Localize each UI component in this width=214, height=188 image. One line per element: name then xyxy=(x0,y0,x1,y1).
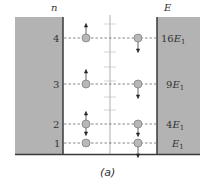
infinite-square-well-diagram: n E 4 3 2 1 16E1 9E1 4E1 E1 (a) xyxy=(0,0,214,188)
particle-left-n3 xyxy=(82,80,90,88)
particle-left-n4 xyxy=(82,34,90,42)
n-label-3: 3 xyxy=(53,79,59,90)
n-label-2: 2 xyxy=(53,119,59,130)
particle-left-n1 xyxy=(82,139,90,147)
e-axis-label: E xyxy=(163,2,172,13)
particle-right-n4 xyxy=(134,34,142,42)
particle-right-n2 xyxy=(134,120,142,128)
n-axis-label: n xyxy=(51,2,57,13)
figure-caption: (a) xyxy=(100,166,115,179)
n-label-1: 1 xyxy=(54,138,60,149)
n-label-4: 4 xyxy=(53,33,59,44)
particle-right-n1 xyxy=(134,139,142,147)
particle-right-n3 xyxy=(134,80,142,88)
particle-left-n2 xyxy=(82,120,90,128)
